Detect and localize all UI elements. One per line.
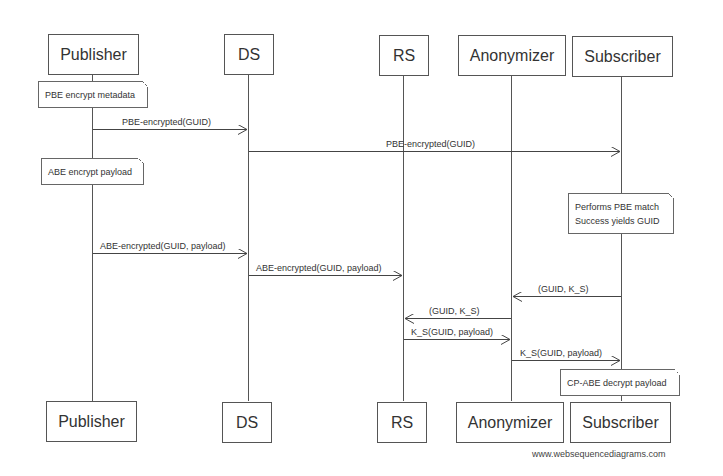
- actor-label: Publisher: [58, 413, 125, 431]
- actor-ds-bottom: DS: [222, 402, 272, 443]
- actor-publisher-bottom: Publisher: [46, 401, 137, 442]
- note-line: ABE encrypt payload: [48, 165, 137, 179]
- note-pbe-match: Performs PBE match Success yields GUID: [568, 193, 674, 234]
- note-pbe-encrypt-metadata: PBE encrypt metadata: [38, 81, 148, 108]
- actor-label: Anonymizer: [470, 47, 554, 65]
- note-line: Performs PBE match: [575, 200, 667, 214]
- actor-subscriber-bottom: Subscriber: [570, 402, 671, 443]
- actor-subscriber-top: Subscriber: [572, 36, 673, 77]
- message-label-1: PBE-encrypted(GUID): [122, 117, 211, 127]
- actor-rs-top: RS: [379, 35, 429, 76]
- actor-label: DS: [236, 414, 258, 432]
- message-label-8: K_S(GUID, payload): [520, 348, 602, 358]
- message-label-4: ABE-encrypted(GUID, payload): [256, 263, 382, 273]
- actor-label: Subscriber: [584, 48, 660, 66]
- actor-label: RS: [391, 414, 413, 432]
- actor-label: RS: [393, 47, 415, 65]
- actor-label: Subscriber: [582, 414, 658, 432]
- actor-label: DS: [238, 46, 260, 64]
- message-label-3: ABE-encrypted(GUID, payload): [100, 241, 226, 251]
- note-cp-abe-decrypt: CP-ABE decrypt payload: [560, 369, 680, 396]
- message-label-2: PBE-encrypted(GUID): [386, 139, 475, 149]
- actor-rs-bottom: RS: [377, 402, 427, 443]
- note-line: PBE encrypt metadata: [45, 88, 141, 102]
- note-abe-encrypt-payload: ABE encrypt payload: [41, 158, 144, 185]
- actor-anonymizer-bottom: Anonymizer: [456, 402, 564, 443]
- actor-label: Anonymizer: [468, 414, 552, 432]
- message-label-6: (GUID, K_S): [429, 306, 480, 316]
- note-line: Success yields GUID: [575, 214, 667, 228]
- note-line: CP-ABE decrypt payload: [567, 376, 673, 390]
- actor-label: Publisher: [60, 46, 127, 64]
- message-label-5: (GUID, K_S): [538, 284, 589, 294]
- actor-ds-top: DS: [224, 34, 274, 75]
- actor-anonymizer-top: Anonymizer: [458, 35, 566, 76]
- watermark: www.websequencediagrams.com: [532, 449, 666, 459]
- message-label-7: K_S(GUID, payload): [411, 327, 493, 337]
- actor-publisher-top: Publisher: [48, 34, 139, 75]
